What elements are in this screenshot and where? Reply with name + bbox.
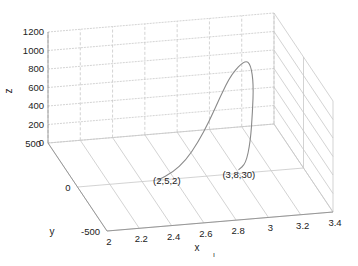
- z-tick-label: 200: [28, 119, 44, 130]
- x-tick-label: 3.4: [328, 217, 341, 228]
- z-tick-label: 600: [28, 82, 44, 93]
- tick-labels: 22.22.42.62.833.23.4-5000500020040060080…: [23, 26, 342, 247]
- z-tick-label: 0: [39, 137, 44, 148]
- z-tick-label: 800: [28, 63, 44, 74]
- axes-box: [48, 32, 333, 231]
- backwall-grid-z: [48, 32, 274, 51]
- curve-series: [158, 62, 253, 180]
- z-tick-label: 400: [28, 100, 44, 111]
- grid-lines: [48, 13, 333, 231]
- backwall-grid-z: [48, 69, 274, 88]
- x-tick-label: 3: [268, 222, 273, 233]
- x-tick-label: 2.2: [135, 233, 148, 244]
- plot-3d: 22.22.42.62.833.23.4-5000500020040060080…: [0, 0, 358, 266]
- z-axis-label: z: [3, 89, 14, 94]
- y-tick-label: -500: [81, 226, 100, 237]
- x-tick-label: 2.8: [232, 225, 245, 236]
- backwall-grid-z: [48, 106, 274, 125]
- backwall-grid-z: [48, 87, 274, 106]
- z-tick-label: 1000: [23, 45, 44, 56]
- y-axis-line: [48, 143, 107, 231]
- x-tick-label: 3.2: [296, 220, 309, 231]
- y-axis-label: y: [50, 226, 55, 237]
- y-tick-label: 0: [65, 182, 70, 193]
- x-tick-label: 2: [106, 236, 111, 247]
- x-tick-label: 2.6: [199, 228, 212, 239]
- x-axis-label: x: [195, 242, 200, 253]
- annotation-end: (3,8,30): [222, 169, 255, 180]
- curve-line: [158, 62, 253, 180]
- stray-mark: ı: [213, 251, 215, 258]
- backwall-grid-z: [48, 13, 274, 32]
- z-tick-label: 1200: [23, 26, 44, 37]
- annotation-start: (2,5,2): [153, 175, 180, 186]
- floor-grid-y: [78, 168, 304, 187]
- x-tick-label: 2.4: [167, 231, 180, 242]
- backwall-grid-z: [48, 50, 274, 69]
